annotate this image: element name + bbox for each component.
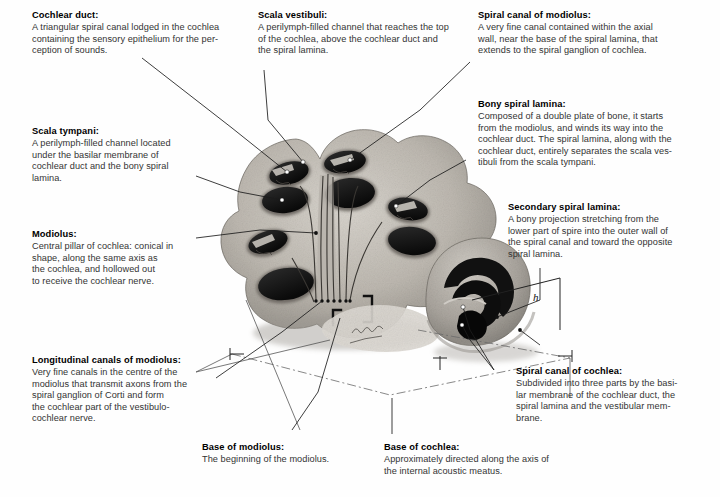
note-title: Scala tympani: — [32, 126, 212, 138]
note-body: Composed of a double plate of bone, it s… — [478, 111, 696, 169]
note-title: Modiolus: — [32, 229, 210, 241]
note-body: The beginning of the modiolus. — [202, 454, 382, 466]
note-title: Longitudinal canals of modiolus: — [32, 355, 228, 367]
note-title: Spiral canal of cochlea: — [516, 366, 706, 378]
note-base-of-modiolus: Base of modiolus: The beginning of the m… — [202, 442, 382, 466]
dimension-label-h: h — [533, 291, 539, 303]
note-body: A perilymph-filled channel that reaches … — [258, 22, 463, 57]
note-body: Central pillar of cochlea: conical in sh… — [32, 241, 210, 287]
note-title: Base of modiolus: — [202, 442, 382, 454]
note-body: A bony projection stretching from the lo… — [508, 214, 698, 260]
note-title: Spiral canal of modiolus: — [478, 10, 694, 22]
note-title: Cochlear duct: — [32, 10, 244, 22]
note-title: Scala vestibuli: — [258, 10, 463, 22]
cochlea-anatomy-figure: h Cochlear duct: A triangular spiral can… — [0, 0, 720, 497]
note-body: A perilymph-filled channel located under… — [32, 138, 212, 184]
note-title: Base of cochlea: — [384, 442, 584, 454]
leader-spiral-canal-cochlea-c — [520, 330, 540, 345]
note-cochlear-duct: Cochlear duct: A triangular spiral canal… — [32, 10, 244, 57]
note-title: Secondary spiral lamina: — [508, 202, 698, 214]
note-scala-vestibuli: Scala vestibuli: A perilymph-filled chan… — [258, 10, 463, 57]
note-spiral-canal-of-cochlea: Spiral canal of cochlea: Subdivided into… — [516, 366, 706, 424]
note-title: Bony spiral lamina: — [478, 99, 696, 111]
note-body: Very fine canals in the centre of the mo… — [32, 367, 228, 425]
note-scala-tympani: Scala tympani: A perilymph-filled channe… — [32, 126, 212, 184]
note-longitudinal-canals-of-modiolus: Longitudinal canals of modiolus: Very fi… — [32, 355, 228, 425]
note-spiral-canal-of-modiolus: Spiral canal of modiolus: A very fine ca… — [478, 10, 694, 57]
note-base-of-cochlea: Base of cochlea: Approximately directed … — [384, 442, 584, 477]
note-modiolus: Modiolus: Central pillar of cochlea: con… — [32, 229, 210, 287]
note-body: A triangular spiral canal lodged in the … — [32, 22, 244, 57]
note-body: A very fine canal contained within the a… — [478, 22, 694, 57]
note-bony-spiral-lamina: Bony spiral lamina: Composed of a double… — [478, 99, 696, 169]
note-body: Subdivided into three parts by the basi-… — [516, 378, 706, 424]
note-body: Approximately directed along the axis of… — [384, 454, 584, 477]
note-secondary-spiral-lamina: Secondary spiral lamina: A bony projecti… — [508, 202, 698, 260]
